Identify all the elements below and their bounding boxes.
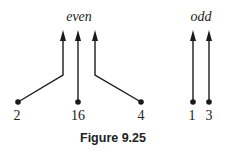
node-label: 4	[138, 108, 145, 124]
arrowhead-icon	[75, 30, 81, 41]
figure: even odd 2 16 4 1 3 Figure 9.25	[0, 0, 231, 157]
arrowhead-icon	[92, 30, 98, 41]
figure-caption: Figure 9.25	[80, 131, 146, 145]
group-label-odd: odd	[191, 9, 212, 25]
arrowhead-icon	[190, 30, 196, 41]
node-dot-icon	[75, 99, 81, 105]
node-label: 16	[71, 108, 85, 124]
arrowhead-icon	[60, 30, 66, 41]
arrowhead-icon	[206, 30, 212, 41]
node-label: 3	[206, 108, 213, 124]
node-dot-icon	[190, 99, 196, 105]
edge-2-even	[18, 36, 63, 102]
group-label-even: even	[66, 9, 92, 25]
node-dot-icon	[15, 99, 21, 105]
node-label: 1	[189, 108, 196, 124]
node-dot-icon	[138, 99, 144, 105]
edge-4-even	[95, 36, 141, 102]
node-label: 2	[14, 108, 21, 124]
node-dot-icon	[206, 99, 212, 105]
